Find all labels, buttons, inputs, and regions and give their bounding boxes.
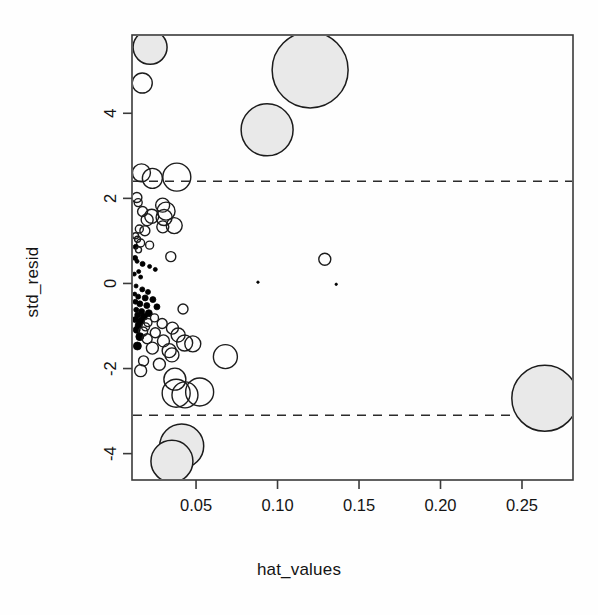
data-point — [153, 267, 157, 271]
data-point — [132, 73, 152, 93]
y-tick-label: -4 — [101, 446, 119, 461]
data-point — [136, 294, 141, 299]
data-point — [135, 365, 147, 377]
y-tick-label: 0 — [101, 279, 119, 288]
data-point — [140, 226, 150, 236]
data-point — [241, 104, 293, 156]
data-point — [145, 289, 150, 294]
data-point — [132, 272, 136, 276]
data-point — [272, 32, 348, 108]
data-point — [137, 301, 143, 307]
data-point — [134, 284, 138, 288]
data-point — [132, 193, 142, 203]
data-point — [148, 264, 152, 268]
influence-plot: 0.050.100.150.200.25420-2-4 hat_values s… — [0, 0, 598, 615]
data-point — [137, 270, 141, 274]
data-point — [178, 304, 188, 314]
x-tick-label: 0.15 — [343, 496, 375, 514]
data-point — [142, 168, 162, 188]
plot-frame — [132, 35, 573, 480]
data-point — [151, 440, 193, 482]
scatter-plot-canvas: 0.050.100.150.200.25420-2-4 — [0, 0, 598, 615]
data-point — [146, 342, 158, 354]
data-point — [140, 287, 145, 292]
points-group — [132, 30, 578, 482]
data-point — [166, 252, 176, 262]
data-point — [157, 335, 169, 347]
data-point — [319, 253, 331, 265]
data-point — [335, 283, 337, 285]
data-point — [213, 345, 237, 369]
x-axis-label: hat_values — [0, 560, 598, 580]
x-tick-label: 0.05 — [180, 496, 212, 514]
data-point — [257, 281, 259, 283]
y-tick-label: 2 — [101, 194, 119, 203]
data-point — [150, 297, 156, 303]
y-tick-label: -2 — [101, 361, 119, 376]
data-point — [141, 214, 153, 226]
data-point — [146, 241, 154, 249]
data-point — [165, 348, 179, 362]
data-point — [512, 365, 578, 431]
data-point — [154, 304, 160, 310]
x-tick-label: 0.10 — [261, 496, 293, 514]
data-point — [136, 247, 142, 253]
data-point — [142, 295, 148, 301]
x-tick-label: 0.25 — [506, 496, 538, 514]
data-point — [140, 261, 145, 266]
data-point — [144, 303, 150, 309]
y-tick-label: 4 — [101, 109, 119, 118]
data-point — [139, 275, 143, 279]
data-point — [163, 163, 191, 191]
data-point — [133, 342, 141, 350]
data-point — [132, 164, 150, 182]
data-point — [153, 358, 165, 370]
data-point — [157, 318, 167, 328]
x-tick-label: 0.20 — [424, 496, 456, 514]
data-point — [135, 259, 139, 263]
y-axis-label: std_resid — [23, 202, 43, 362]
